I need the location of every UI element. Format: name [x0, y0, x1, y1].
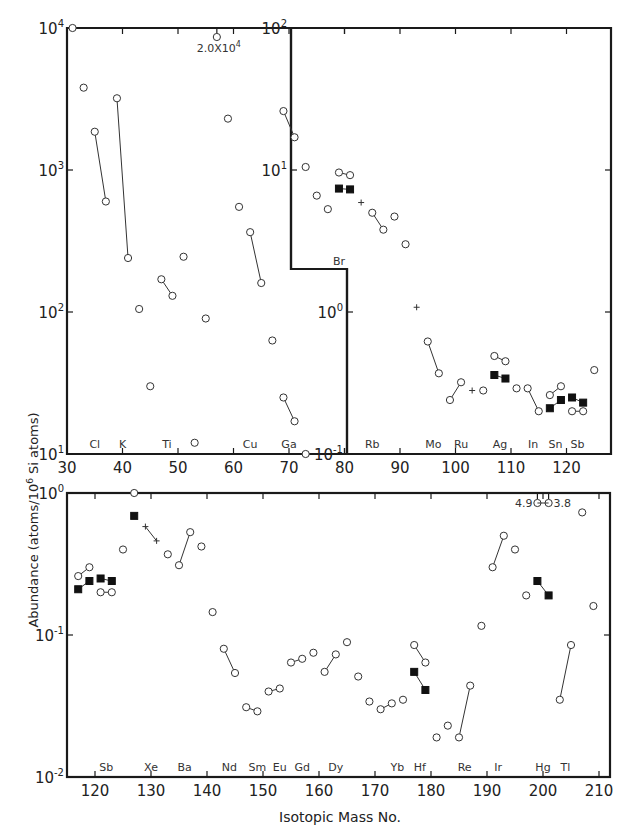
- labels: 304050607080101102103104ClKTiCuGa2.0X104…: [35, 18, 613, 800]
- filled-square-point: [502, 375, 509, 382]
- open-circle-point: [411, 641, 418, 648]
- off-scale-annotation: 3.8: [554, 497, 572, 510]
- top-left-frame: [67, 28, 347, 454]
- open-circle-point: [102, 198, 109, 205]
- x-tick-label: 200: [529, 782, 558, 800]
- open-circle-point: [455, 734, 462, 741]
- off-scale-annotation: 4.9: [515, 497, 533, 510]
- open-circle-point: [91, 128, 98, 135]
- open-circle-point: [302, 450, 309, 457]
- open-circle-point: [467, 682, 474, 689]
- open-circle-point: [457, 379, 464, 386]
- open-circle-point: [590, 602, 597, 609]
- open-circle-point: [119, 546, 126, 553]
- open-circle-point: [291, 418, 298, 425]
- x-tick-label: 60: [224, 459, 243, 477]
- open-circle-point: [209, 608, 216, 615]
- open-circle-point: [136, 305, 143, 312]
- open-circle-point: [524, 385, 531, 392]
- open-circle-point: [391, 213, 398, 220]
- open-circle-point: [346, 172, 353, 179]
- element-label: Ir: [494, 761, 502, 774]
- open-circle-point: [343, 639, 350, 646]
- open-circle-point: [269, 337, 276, 344]
- element-label: Sm: [249, 761, 267, 774]
- open-circle-point: [187, 529, 194, 536]
- element-label: Gd: [294, 761, 310, 774]
- open-circle-point: [299, 655, 306, 662]
- open-circle-point: [313, 192, 320, 199]
- open-circle-point: [424, 338, 431, 345]
- open-circle-point: [399, 696, 406, 703]
- x-tick-label: 30: [57, 459, 76, 477]
- y-axis-title: Abundance (atoms/106 Si atoms): [25, 412, 41, 627]
- open-circle-point: [422, 659, 429, 666]
- element-label: Xe: [144, 761, 158, 774]
- open-circle-point: [108, 589, 115, 596]
- element-label: Rb: [365, 438, 380, 451]
- open-circle-point: [377, 706, 384, 713]
- off-scale-point: [213, 33, 220, 40]
- open-circle-point: [254, 708, 261, 715]
- y-tick-label: 10-2: [35, 767, 64, 787]
- open-circle-point: [276, 685, 283, 692]
- x-tick-label: 40: [113, 459, 132, 477]
- element-label: Tl: [560, 761, 571, 774]
- open-circle-point: [131, 489, 138, 496]
- open-circle-point: [113, 95, 120, 102]
- filled-square-point: [131, 512, 138, 519]
- open-circle-point: [147, 383, 154, 390]
- open-circle-point: [198, 543, 205, 550]
- filled-square-point: [580, 399, 587, 406]
- x-tick-label: 160: [305, 782, 334, 800]
- x-tick-label: 180: [417, 782, 446, 800]
- element-label: Yb: [390, 761, 405, 774]
- open-circle-point: [380, 226, 387, 233]
- open-circle-point: [513, 385, 520, 392]
- open-circle-point: [180, 253, 187, 260]
- open-circle-point: [243, 704, 250, 711]
- x-tick-label: 70: [279, 459, 298, 477]
- element-label: Br: [333, 255, 346, 268]
- open-circle-point: [489, 564, 496, 571]
- element-label: Eu: [273, 761, 287, 774]
- open-circle-point: [231, 669, 238, 676]
- open-circle-point: [500, 532, 507, 539]
- open-circle-point: [556, 696, 563, 703]
- open-circle-point: [175, 562, 182, 569]
- y-tick-label: 102: [39, 302, 64, 322]
- element-label: Ag: [493, 438, 508, 451]
- open-circle-point: [280, 107, 287, 114]
- open-circle-point: [567, 641, 574, 648]
- open-circle-point: [287, 659, 294, 666]
- filled-square-point: [545, 592, 552, 599]
- open-circle-point: [75, 572, 82, 579]
- filled-square-point: [491, 372, 498, 379]
- open-circle-point: [335, 169, 342, 176]
- element-label: Hg: [535, 761, 550, 774]
- top-right-frame: [291, 28, 611, 454]
- open-circle-point: [332, 651, 339, 658]
- open-circle-point: [355, 673, 362, 680]
- open-circle-point: [433, 734, 440, 741]
- open-circle-point: [402, 241, 409, 248]
- element-label: Sb: [571, 438, 585, 451]
- element-label: Ga: [281, 438, 296, 451]
- element-label: Re: [458, 761, 472, 774]
- open-circle-point: [435, 370, 442, 377]
- open-circle-point: [444, 722, 451, 729]
- x-tick-label: 110: [497, 459, 526, 477]
- y-tick-label: 102: [262, 18, 287, 38]
- open-circle-point: [502, 358, 509, 365]
- abundance-chart: 304050607080101102103104ClKTiCuGa2.0X104…: [0, 0, 631, 833]
- element-label: In: [528, 438, 538, 451]
- open-circle-point: [202, 315, 209, 322]
- element-label: Ba: [177, 761, 191, 774]
- x-tick-label: 150: [249, 782, 278, 800]
- open-circle-point: [388, 700, 395, 707]
- x-tick-label: 190: [473, 782, 502, 800]
- x-axis-title: Isotopic Mass No.: [279, 809, 401, 825]
- filled-square-point: [86, 578, 93, 585]
- filled-square-point: [108, 578, 115, 585]
- open-circle-point: [97, 589, 104, 596]
